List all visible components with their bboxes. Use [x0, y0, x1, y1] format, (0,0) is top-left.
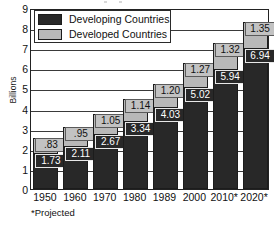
bar-segment-developing — [183, 88, 208, 189]
value-label-developed: 1.20 — [155, 84, 186, 98]
legend-label-developed: Developed Countries — [69, 28, 167, 40]
y-axis-tick-label: 8 — [14, 24, 28, 34]
y-axis-tick-label: 5 — [14, 84, 28, 94]
value-label-developed: 1.14 — [125, 99, 156, 113]
value-label-developed: 1.05 — [95, 114, 126, 128]
scan-artifact — [119, 1, 122, 3]
bar-segment-developing — [213, 70, 238, 189]
y-axis-tick-label: 4 — [14, 105, 28, 115]
value-label-developed: 1.27 — [185, 63, 216, 77]
x-axis-tick-label: 2020* — [237, 191, 271, 204]
value-label-developed: .95 — [65, 127, 96, 141]
y-axis-tick-label: 0 — [14, 185, 28, 195]
legend-item-developed: Developed Countries — [38, 27, 167, 41]
legend-item-developing: Developing Countries — [38, 12, 169, 26]
y-axis-tick-label: 3 — [14, 125, 28, 135]
legend-swatch-developed-icon — [38, 29, 62, 40]
x-axis-tick-labels: 1950196019701980198920002010*2020* — [30, 191, 269, 207]
value-label-developing: 3.34 — [125, 122, 156, 136]
bar-segment-developing — [243, 49, 268, 189]
value-label-developing: 5.94 — [215, 70, 246, 84]
y-axis-tick-label: 9 — [14, 4, 28, 14]
legend-swatch-developing-icon — [38, 14, 62, 25]
population-stacked-bar-chart: Billions 9876543210 .831.73.952.111.052.… — [0, 0, 274, 226]
value-label-developed: 1.32 — [215, 43, 246, 57]
footnote-projected: *Projected — [31, 207, 75, 218]
value-label-developing: 1.73 — [35, 154, 66, 168]
scan-artifact — [104, 1, 107, 3]
value-label-developing: 2.11 — [65, 147, 96, 161]
chart-legend: Developing Countries Developed Countries — [34, 10, 171, 43]
y-axis-tick-label: 2 — [14, 145, 28, 155]
y-axis-tick-label: 1 — [14, 165, 28, 175]
value-label-developing: 4.03 — [155, 108, 186, 122]
value-label-developed: .83 — [35, 138, 66, 152]
legend-label-developing: Developing Countries — [69, 13, 169, 25]
y-axis-tick-labels: 9876543210 — [6, 0, 28, 226]
bar-group — [213, 8, 238, 189]
y-axis-tick-label: 7 — [14, 44, 28, 54]
value-label-developed: 1.35 — [245, 22, 274, 36]
value-label-developing: 2.67 — [95, 135, 126, 149]
value-label-developing: 5.02 — [185, 88, 216, 102]
value-label-developing: 6.94 — [245, 49, 274, 63]
y-axis-tick-label: 6 — [14, 64, 28, 74]
